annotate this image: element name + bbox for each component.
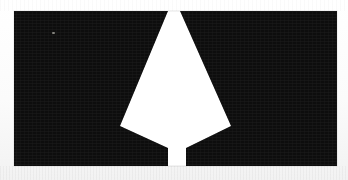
- bright-speck-artifact: [52, 32, 55, 34]
- wedge-figure-svg: [0, 0, 348, 180]
- figure-canvas: [0, 0, 348, 180]
